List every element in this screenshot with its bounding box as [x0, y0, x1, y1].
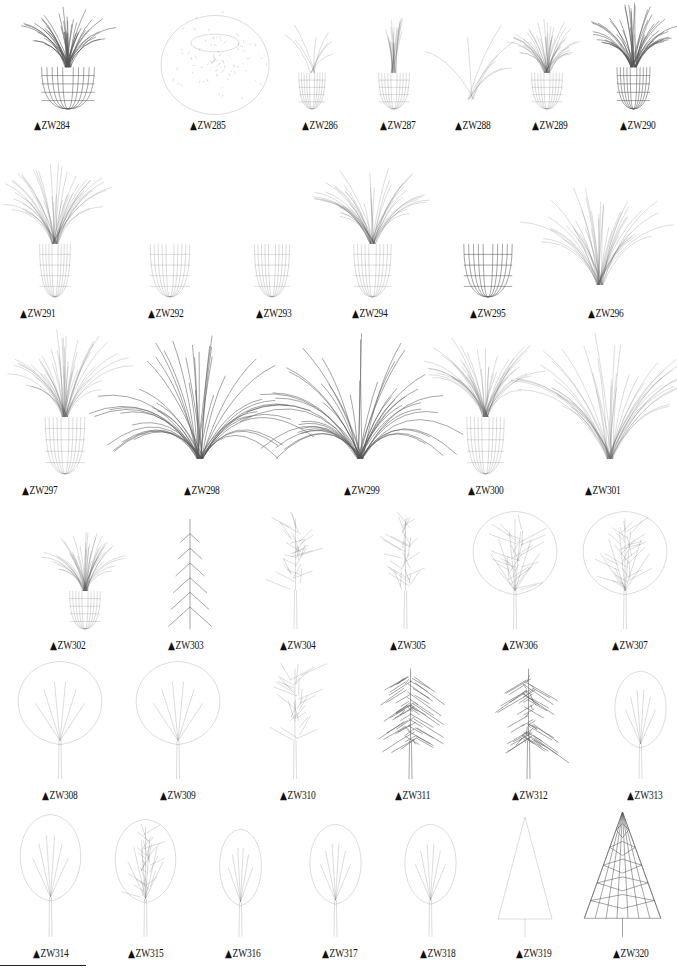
- plant-code: ZW317: [330, 947, 358, 959]
- triangle-marker-icon: ▲: [585, 484, 592, 497]
- plant-code: ZW316: [233, 947, 261, 959]
- plant-code-label: ▲ZW293: [256, 307, 292, 320]
- grass-wide-plant-icon: [290, 324, 430, 474]
- tree-branched-plant-icon: [113, 817, 178, 937]
- spiky-pot-plant-icon: [330, 157, 415, 297]
- spiky-pot-plant-icon: [512, 14, 582, 109]
- plant-code: ZW301: [593, 484, 621, 496]
- grass-plant-icon: [560, 324, 660, 474]
- grass-wide-plant-icon: [130, 324, 270, 474]
- plant-code: ZW307: [620, 639, 648, 651]
- plant-code-label: ▲ZW314: [33, 947, 69, 960]
- plant-code: ZW315: [136, 947, 164, 959]
- plant-code: ZW306: [510, 639, 538, 651]
- plant-code: ZW310: [288, 789, 316, 801]
- plant-code-label: ▲ZW317: [322, 947, 358, 960]
- plant-code-label: ▲ZW310: [280, 789, 316, 802]
- tree-bare-plant-icon: [368, 509, 443, 629]
- plant-code: ZW297: [30, 484, 58, 496]
- plant-code: ZW292: [156, 307, 184, 319]
- triangle-marker-icon: ▲: [322, 947, 329, 960]
- plant-code: ZW295: [478, 307, 506, 319]
- triangle-marker-icon: ▲: [302, 119, 309, 132]
- branch-pot-plant-icon: [433, 157, 543, 297]
- spiky-pot-plant-icon: [20, 324, 110, 474]
- plant-code-label: ▲ZW303: [168, 639, 204, 652]
- triangle-marker-icon: ▲: [34, 119, 41, 132]
- plant-code-label: ▲ZW315: [128, 947, 164, 960]
- plant-code-label: ▲ZW288: [455, 119, 491, 132]
- plant-code-label: ▲ZW319: [516, 947, 552, 960]
- triangle-marker-icon: ▲: [502, 639, 509, 652]
- tree-weeping-plant-icon: [481, 659, 576, 779]
- plant-code-label: ▲ZW318: [420, 947, 456, 960]
- triangle-marker-icon: ▲: [627, 789, 634, 802]
- plant-code: ZW300: [476, 484, 504, 496]
- plant-code: ZW287: [388, 119, 416, 131]
- plant-code: ZW314: [41, 947, 69, 959]
- plant-code-label: ▲ZW307: [612, 639, 648, 652]
- grass-pot-plant-icon: [20, 157, 90, 297]
- plant-code: ZW302: [58, 639, 86, 651]
- triangle-marker-icon: ▲: [33, 947, 40, 960]
- leaf-pot-plant-icon: [282, 14, 342, 109]
- spiky-pot-plant-icon: [443, 324, 528, 474]
- sprout-plant-icon: [451, 14, 491, 109]
- triangle-marker-icon: ▲: [148, 307, 155, 320]
- plant-code: ZW305: [398, 639, 426, 651]
- plant-code-label: ▲ZW286: [302, 119, 338, 132]
- conifer-plant-icon: [160, 519, 220, 629]
- plant-code-label: ▲ZW308: [42, 789, 78, 802]
- plant-code: ZW319: [524, 947, 552, 959]
- plant-code-label: ▲ZW301: [585, 484, 621, 497]
- triangle-marker-icon: ▲: [280, 789, 287, 802]
- tree-oval-plant-icon: [308, 822, 363, 937]
- triangle-marker-icon: ▲: [128, 947, 135, 960]
- triangle-marker-icon: ▲: [160, 789, 167, 802]
- plant-code-label: ▲ZW294: [352, 307, 388, 320]
- plant-code: ZW304: [288, 639, 316, 651]
- round-bush-plant-icon: [155, 0, 275, 109]
- triangle-marker-icon: ▲: [256, 307, 263, 320]
- triangle-marker-icon: ▲: [612, 639, 619, 652]
- tree-round-plant-icon: [580, 509, 670, 629]
- plant-code: ZW309: [168, 789, 196, 801]
- triangle-marker-icon: ▲: [184, 484, 191, 497]
- plant-code-label: ▲ZW287: [380, 119, 416, 132]
- plant-code: ZW308: [50, 789, 78, 801]
- plant-code-label: ▲ZW305: [390, 639, 426, 652]
- plant-code-label: ▲ZW300: [468, 484, 504, 497]
- plant-code-label: ▲ZW295: [470, 307, 506, 320]
- tree-oval-plant-icon: [218, 827, 263, 937]
- plant-code-label: ▲ZW299: [344, 484, 380, 497]
- triangle-marker-icon: ▲: [532, 119, 539, 132]
- triangle-marker-icon: ▲: [390, 639, 397, 652]
- plant-code-label: ▲ZW297: [22, 484, 58, 497]
- tree-round-plant-icon: [470, 509, 560, 629]
- footer-rule: [0, 965, 86, 966]
- plant-code: ZW291: [28, 307, 56, 319]
- plant-code: ZW299: [352, 484, 380, 496]
- grass-plant-icon: [550, 177, 650, 297]
- plant-code: ZW288: [463, 119, 491, 131]
- palm-globe-plant-icon: [596, 0, 671, 109]
- triangle-marker-icon: ▲: [168, 639, 175, 652]
- plant-code-label: ▲ZW304: [280, 639, 316, 652]
- plant-code: ZW290: [628, 119, 656, 131]
- triangle-marker-icon: ▲: [190, 119, 197, 132]
- triangle-marker-icon: ▲: [395, 789, 402, 802]
- triangle-marker-icon: ▲: [42, 789, 49, 802]
- v-pot-plant-icon: [50, 529, 120, 629]
- plant-code-label: ▲ZW290: [620, 119, 656, 132]
- triangle-marker-icon: ▲: [468, 484, 475, 497]
- tree-oval-plant-icon: [18, 812, 83, 937]
- triangle-marker-icon: ▲: [22, 484, 29, 497]
- plant-code-label: ▲ZW302: [50, 639, 86, 652]
- tree-weeping-plant-icon: [363, 659, 458, 779]
- tree-oval-plant-icon: [613, 669, 668, 779]
- plant-code-label: ▲ZW306: [502, 639, 538, 652]
- triangle-marker-icon: ▲: [344, 484, 351, 497]
- tree-bare-plant-icon: [255, 659, 335, 779]
- triangle-marker-icon: ▲: [512, 789, 519, 802]
- triangle-marker-icon: ▲: [620, 119, 627, 132]
